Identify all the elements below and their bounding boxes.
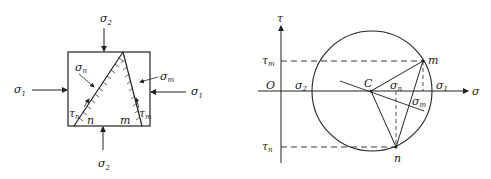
- label-sigma-m: σm: [412, 95, 427, 109]
- label-sigma2-top: σ2: [100, 12, 113, 27]
- stress-element-diagram: σ2 σ2 σ1 σ1 σn σm τn τm n m: [14, 12, 203, 172]
- point-m: [422, 60, 425, 63]
- label-sigma1: σ1: [436, 79, 448, 93]
- label-tau-m: τm: [262, 54, 275, 68]
- label-point-m: m: [428, 54, 438, 67]
- label-sigma2-bottom: σ2: [98, 157, 111, 172]
- label-tau-axis: τ: [277, 12, 284, 25]
- sigma-m-arrow: [140, 77, 158, 82]
- label-sigma1-left: σ1: [14, 83, 26, 98]
- point-c: [370, 90, 373, 93]
- mohr-circle-diagram: τ σ O C σ2 σ1 τm τn σn σm m n: [258, 12, 480, 165]
- label-plane-n: n: [87, 114, 94, 127]
- label-tau-n: τn: [69, 107, 80, 121]
- label-origin: O: [266, 79, 275, 92]
- mohr-circle-figure: σ2 σ2 σ1 σ1 σn σm τn τm n m τ σ O: [0, 0, 491, 179]
- label-point-n: n: [394, 152, 401, 165]
- point-n: [395, 146, 398, 149]
- inclined-planes: [74, 52, 142, 126]
- label-plane-m: m: [120, 114, 130, 127]
- hatching-m: [121, 60, 140, 120]
- label-sigma-n: σn: [75, 61, 88, 75]
- label-sigma2: σ2: [295, 79, 308, 93]
- label-sigma-axis: σ: [472, 85, 480, 98]
- tau-n-arrow: [84, 99, 89, 107]
- label-tau-n: τn: [262, 140, 273, 154]
- label-sigma1-right: σ1: [191, 85, 203, 100]
- label-sigma-n: σn: [390, 79, 403, 93]
- label-center: C: [364, 77, 373, 90]
- label-sigma-m: σm: [160, 70, 175, 84]
- sigma-n-arrow: [79, 74, 94, 87]
